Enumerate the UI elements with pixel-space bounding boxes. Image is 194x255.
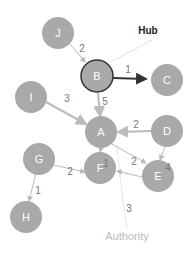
weight-d-e: 4 xyxy=(165,162,171,173)
svg-text:G: G xyxy=(35,153,44,165)
edge-i-a xyxy=(46,102,86,124)
hub-label: Hub xyxy=(138,25,157,36)
weight-e-f: 3 xyxy=(126,203,132,214)
node-c: C xyxy=(151,64,183,96)
svg-text:E: E xyxy=(154,170,161,182)
node-a: A xyxy=(85,116,117,148)
weight-g-f: 2 xyxy=(67,166,73,177)
node-f: F xyxy=(84,152,116,184)
svg-text:J: J xyxy=(55,27,61,39)
node-j: J xyxy=(42,17,74,49)
node-d: D xyxy=(151,115,183,147)
edge-b-a xyxy=(98,93,100,116)
edge-d-a xyxy=(118,131,151,132)
svg-text:H: H xyxy=(22,211,30,223)
svg-text:I: I xyxy=(29,91,32,103)
weight-j-b: 2 xyxy=(79,43,85,54)
node-b: B xyxy=(81,60,113,92)
edge-b-c xyxy=(113,78,146,79)
node-h: H xyxy=(10,201,42,233)
edge-a-e xyxy=(112,144,146,163)
graph-diagram: J B C I A D G F E H 2 1 3 5 2 1 2 4 2 1 … xyxy=(0,0,194,255)
svg-text:B: B xyxy=(93,70,100,82)
node-g: G xyxy=(23,143,55,175)
weight-a-e: 2 xyxy=(131,156,137,167)
weight-a-f: 1 xyxy=(103,158,109,169)
weight-g-h: 1 xyxy=(35,185,41,196)
edge-a-f xyxy=(100,148,101,152)
weight-i-a: 3 xyxy=(64,93,70,104)
weight-d-a: 2 xyxy=(133,119,139,130)
edge-e-f xyxy=(117,171,142,177)
authority-pointer-line xyxy=(117,145,127,228)
weight-b-a: 5 xyxy=(102,96,108,107)
svg-text:D: D xyxy=(163,125,171,137)
svg-text:A: A xyxy=(97,126,105,138)
hub-pointer-line xyxy=(111,40,152,62)
authority-label: Authority xyxy=(105,230,149,242)
svg-text:C: C xyxy=(163,74,171,86)
weight-b-c: 1 xyxy=(125,64,131,75)
node-i: I xyxy=(15,81,47,113)
edge-d-e xyxy=(160,147,165,160)
